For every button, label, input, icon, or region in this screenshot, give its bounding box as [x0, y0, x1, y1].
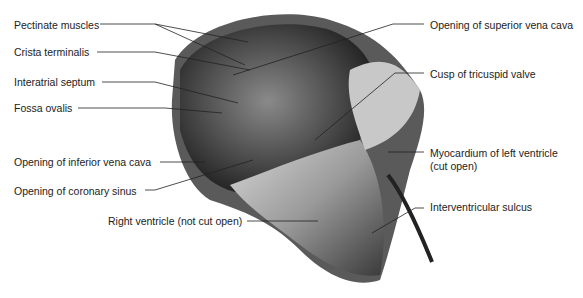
label-inferior-vena-cava: Opening of inferior vena cava: [14, 156, 151, 168]
label-coronary-sinus: Opening of coronary sinus: [14, 185, 137, 197]
label-myocardium-cut-open: (cut open): [430, 160, 477, 172]
label-interventricular-sulcus: Interventricular sulcus: [430, 201, 532, 213]
label-tricuspid-valve: Cusp of tricuspid valve: [430, 68, 536, 80]
label-right-ventricle: Right ventricle (not cut open): [108, 215, 242, 227]
label-fossa-ovalis: Fossa ovalis: [14, 102, 72, 114]
label-crista-terminalis: Crista terminalis: [14, 46, 89, 58]
heart-anatomy-figure: Pectinate muscles Crista terminalis Inte…: [0, 0, 583, 298]
label-interatrial-septum: Interatrial septum: [14, 76, 95, 88]
label-myocardium-left-ventricle: Myocardium of left ventricle: [430, 147, 558, 159]
label-pectinate-muscles: Pectinate muscles: [14, 19, 99, 31]
label-superior-vena-cava: Opening of superior vena cava: [430, 19, 573, 31]
